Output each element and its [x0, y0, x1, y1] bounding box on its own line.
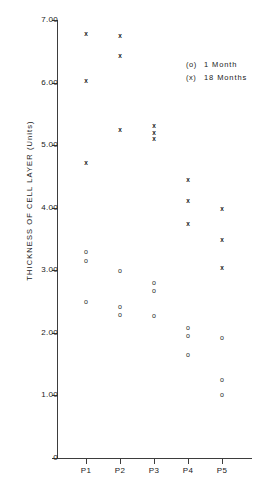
data-point-x: x: [82, 159, 91, 166]
data-point-o: o: [218, 334, 227, 341]
y-tick-label: 5.00: [14, 141, 58, 149]
y-tick-label: 2.00: [14, 329, 58, 337]
y-tick-label: 7.00: [14, 16, 58, 24]
data-point-x: x: [184, 176, 193, 183]
legend-label: 18 Months: [204, 71, 247, 84]
data-point-x: x: [184, 197, 193, 204]
data-point-x: x: [116, 126, 125, 133]
legend: (o)1 Month(x)18 Months: [186, 58, 247, 84]
x-tick-mark: [222, 458, 223, 464]
data-point-x: x: [116, 32, 125, 39]
x-tick-mark: [154, 458, 155, 464]
x-tick-label-p2: P2: [105, 466, 135, 475]
y-tick-label: 6.00: [14, 79, 58, 87]
data-point-x: x: [218, 236, 227, 243]
x-tick-mark: [120, 458, 121, 464]
y-tick-label: 0: [14, 454, 58, 462]
data-point-o: o: [218, 391, 227, 398]
data-point-o: o: [116, 267, 125, 274]
data-point-x: x: [150, 135, 159, 142]
data-point-o: o: [150, 287, 159, 294]
data-point-o: o: [82, 298, 91, 305]
x-tick-label-p1: P1: [71, 466, 101, 475]
x-tick-label-p3: P3: [139, 466, 169, 475]
legend-symbol: (o): [186, 58, 204, 71]
x-tick-mark: [188, 458, 189, 464]
data-point-x: x: [82, 30, 91, 37]
data-point-x: x: [218, 205, 227, 212]
y-tick-label: 3.00: [14, 266, 58, 274]
data-point-o: o: [184, 332, 193, 339]
legend-item: (o)1 Month: [186, 58, 247, 71]
data-point-x: x: [184, 220, 193, 227]
data-point-x: x: [82, 77, 91, 84]
data-point-o: o: [116, 303, 125, 310]
legend-label: 1 Month: [204, 58, 237, 71]
scatter-plot: THICKNESS OF CELL LAYER (Units) 01.002.0…: [0, 0, 267, 493]
y-axis-title: THICKNESS OF CELL LAYER (Units): [25, 86, 34, 316]
legend-symbol: (x): [186, 71, 204, 84]
data-point-o: o: [184, 351, 193, 358]
data-point-x: x: [218, 264, 227, 271]
y-tick-label: 4.00: [14, 204, 58, 212]
y-tick-label: 1.00: [14, 391, 58, 399]
data-point-o: o: [116, 311, 125, 318]
legend-item: (x)18 Months: [186, 71, 247, 84]
data-point-o: o: [184, 324, 193, 331]
x-tick-mark: [86, 458, 87, 464]
x-tick-label-p4: P4: [173, 466, 203, 475]
data-point-o: o: [82, 257, 91, 264]
x-tick-label-p5: P5: [207, 466, 237, 475]
data-point-x: x: [150, 122, 159, 129]
data-point-o: o: [82, 248, 91, 255]
data-point-o: o: [150, 312, 159, 319]
data-point-o: o: [218, 376, 227, 383]
data-point-x: x: [116, 52, 125, 59]
data-point-o: o: [150, 279, 159, 286]
